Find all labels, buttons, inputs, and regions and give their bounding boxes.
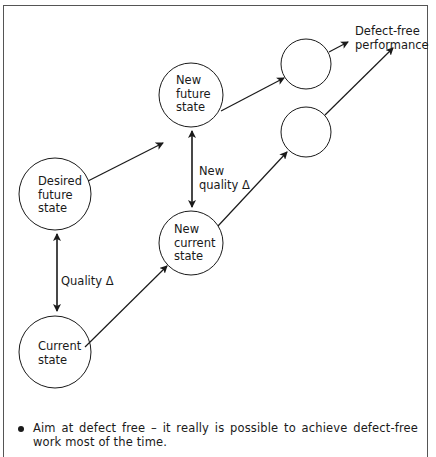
arrow-new-future-to-next-future (221, 78, 284, 111)
arrow-next-current-to-target (325, 48, 393, 115)
label-defect-free-performance: Defect-free performance (355, 25, 429, 52)
label-current-state: Current state (38, 340, 81, 367)
node-next-future-state (281, 39, 331, 89)
bullet-text: Aim at defect free – it really is possib… (33, 422, 418, 449)
arrow-desired-to-new-future (88, 143, 163, 181)
label-new-future-state: New future state (176, 74, 211, 115)
arrow-next-future-to-target (329, 42, 348, 52)
bullet-point: Aim at defect free – it really is possib… (18, 422, 418, 449)
label-desired-future-state: Desired future state (38, 175, 82, 216)
bullet-dot-icon (18, 426, 24, 432)
label-new-quality-delta: New quality Δ (199, 165, 250, 192)
label-new-current-state: New current state (174, 223, 216, 264)
node-next-current-state (281, 107, 331, 157)
label-quality-delta: Quality Δ (61, 275, 114, 289)
